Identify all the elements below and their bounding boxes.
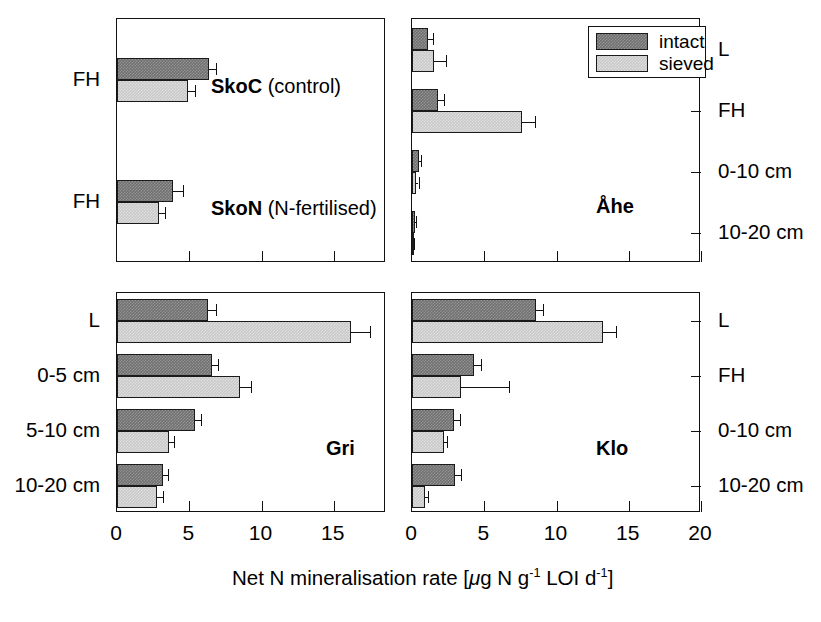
bar-klo-0-sieved [412, 321, 603, 343]
bar-klo-3-intact [412, 464, 455, 486]
bar-ahe-1-sieved [412, 111, 522, 133]
panel-sublabel-sko-1-bold: SkoN [211, 197, 262, 219]
x-axis-title-part: Net N mineralisation rate [ [232, 566, 469, 589]
y-tick-ahe-1 [691, 111, 701, 112]
x-tick-label-klo-1: 5 [453, 522, 513, 543]
y-tick-klo-2 [691, 431, 701, 432]
category-label-gri-0: L [89, 309, 100, 330]
panel-label-ahe: Åhe [596, 196, 634, 216]
error-cap-gri-0-sieved [370, 326, 371, 338]
panel-gri [116, 292, 385, 512]
bar-klo-2-sieved [412, 431, 444, 453]
error-bar-gri-0-sieved [351, 332, 370, 333]
x-tick-sko-5 [189, 251, 190, 262]
x-tick-label-gri-3: 15 [303, 522, 363, 543]
panel-sublabel-sko-0: SkoC (control) [211, 76, 341, 96]
plot-area-sko [117, 19, 384, 261]
bar-gri-3-sieved [117, 486, 157, 508]
bar-sko-0-intact [117, 58, 209, 80]
error-bar-sko-0-sieved [188, 91, 195, 92]
panel-sublabel-sko-1-regular: (N-fertilised) [262, 197, 376, 219]
bar-sko-0-sieved [117, 80, 188, 102]
error-bar-klo-1-sieved [461, 387, 509, 388]
bar-klo-0-intact [412, 299, 536, 321]
category-label-klo-1: FH [718, 364, 745, 385]
category-label-ahe-3: 10-20 cm [718, 221, 803, 242]
x-tick-ahe-10 [557, 251, 558, 262]
x-tick-gri-5 [189, 501, 190, 512]
error-cap-klo-0-sieved [616, 326, 617, 338]
error-cap-gri-1-intact [218, 359, 219, 371]
panel-sublabel-sko-0-bold: SkoC [211, 75, 262, 97]
error-bar-sko-1-sieved [159, 213, 166, 214]
error-bar-sko-1-intact [173, 191, 183, 192]
error-cap-gri-2-sieved [174, 436, 175, 448]
error-cap-ahe-3-sieved [414, 238, 415, 250]
bar-ahe-1-intact [412, 89, 438, 111]
legend-swatch-sieved [596, 55, 648, 72]
x-tick-ahe-15 [629, 251, 630, 262]
bar-sko-1-sieved [117, 202, 159, 224]
error-cap-ahe-0-intact [433, 33, 434, 45]
category-label-ahe-0: L [718, 38, 729, 59]
category-label-klo-2: 0-10 cm [718, 419, 792, 440]
x-tick-label-klo-2: 10 [526, 522, 586, 543]
error-cap-klo-1-sieved [509, 381, 510, 393]
x-tick-ahe-20 [701, 251, 702, 262]
error-bar-ahe-0-sieved [434, 61, 446, 62]
bar-klo-2-intact [412, 409, 454, 431]
x-tick-klo-5 [484, 501, 485, 512]
legend-label-sieved: sieved [659, 54, 714, 73]
error-cap-gri-3-intact [168, 469, 169, 481]
x-axis-title-exponent: -1 [596, 565, 607, 580]
x-tick-label-klo-4: 20 [670, 522, 730, 543]
figure-canvas: FHFHSkoC (control)SkoN (N-fertilised)LFH… [0, 0, 821, 622]
panel-sublabel-sko-1: SkoN (N-fertilised) [211, 198, 377, 218]
error-cap-sko-1-intact [183, 185, 184, 197]
y-tick-klo-3 [691, 486, 701, 487]
error-cap-klo-2-intact [460, 414, 461, 426]
x-axis-title-part: LOI d [541, 566, 597, 589]
bar-ahe-0-sieved [412, 50, 434, 72]
error-cap-gri-3-sieved [163, 491, 164, 503]
panel-sko [116, 18, 385, 262]
x-axis-title-part: ] [608, 566, 614, 589]
x-tick-sko-15 [334, 251, 335, 262]
error-bar-klo-0-intact [536, 310, 543, 311]
x-axis-title-exponent: -1 [529, 565, 540, 580]
plot-area-klo [412, 293, 699, 511]
panel-label-gri: Gri [326, 438, 355, 458]
category-label-sko-0: FH [73, 69, 100, 90]
error-cap-ahe-1-sieved [535, 116, 536, 128]
error-cap-klo-2-sieved [447, 436, 448, 448]
y-tick-ahe-3 [691, 233, 701, 234]
error-bar-klo-0-sieved [603, 332, 616, 333]
category-label-ahe-1: FH [718, 99, 745, 120]
error-cap-klo-3-intact [461, 469, 462, 481]
bar-gri-1-sieved [117, 376, 240, 398]
error-cap-klo-0-intact [543, 304, 544, 316]
error-bar-gri-0-intact [208, 310, 216, 311]
bar-sko-1-intact [117, 180, 173, 202]
category-label-gri-2: 5-10 cm [26, 419, 100, 440]
x-tick-klo-15 [629, 501, 630, 512]
bar-gri-3-intact [117, 464, 163, 486]
bar-klo-3-sieved [412, 486, 425, 508]
error-cap-klo-3-sieved [428, 491, 429, 503]
error-bar-gri-1-sieved [240, 387, 251, 388]
category-label-klo-0: L [718, 309, 729, 330]
bar-gri-1-intact [117, 354, 212, 376]
error-cap-gri-0-intact [216, 304, 217, 316]
y-tick-klo-0 [691, 321, 701, 322]
x-tick-label-klo-3: 15 [598, 522, 658, 543]
bar-gri-0-sieved [117, 321, 351, 343]
x-axis-title: Net N mineralisation rate [μg N g-1 LOI … [232, 568, 613, 589]
x-tick-label-gri-2: 10 [231, 522, 291, 543]
error-cap-ahe-0-sieved [446, 55, 447, 67]
bar-gri-2-intact [117, 409, 195, 431]
category-label-ahe-2: 0-10 cm [718, 160, 792, 181]
error-cap-ahe-2-intact [421, 155, 422, 167]
x-tick-ahe-5 [484, 251, 485, 262]
category-label-klo-3: 10-20 cm [718, 474, 803, 495]
error-cap-ahe-1-intact [444, 94, 445, 106]
